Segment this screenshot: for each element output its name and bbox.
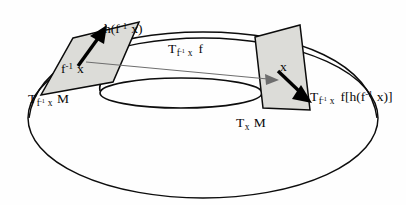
label-M-target: M <box>254 115 266 130</box>
torus-tangent-bundle-figure: Tf-1xM f-1x h(f-1x) Tf-1xf x TxM Tf-1xf[… <box>0 0 406 205</box>
label-tangent-space-target: TxM <box>236 116 266 132</box>
label-f-differential: f <box>199 41 204 56</box>
torus-inner-hole <box>100 78 262 108</box>
label-sub-finv-pushforward: f-1x <box>318 96 335 106</box>
label-base-point-target: x <box>280 60 287 74</box>
label-body-close-pushforward: x)] <box>377 89 393 104</box>
label-base-point-source: f-1x <box>61 62 84 76</box>
label-T-target: T <box>236 115 244 130</box>
label-sub-finv-differential: f-1x <box>176 48 193 58</box>
label-tangent-vector-source: h(f-1x) <box>104 22 142 36</box>
label-sub-x-target: x <box>244 122 249 132</box>
label-x-target: x <box>280 59 287 74</box>
label-sup-inv-vector: -1 <box>120 21 127 31</box>
label-tangent-space-source: Tf-1xM <box>28 92 69 108</box>
label-sub-finv-source: f-1x <box>36 98 53 108</box>
label-body-open-pushforward: f[h(f <box>341 89 366 104</box>
label-sup-inv2-pushforward: -1 <box>365 89 372 99</box>
label-x-close-vector: x) <box>131 21 142 36</box>
label-sup-inv-differential: -1 <box>180 47 185 54</box>
label-sub-x-source: x <box>48 98 53 108</box>
label-sup-inv-pushforward: -1 <box>322 95 327 102</box>
label-T-pushforward: T <box>310 89 318 104</box>
label-sub-x-pushforward: x <box>330 96 335 106</box>
label-x-basepoint: x <box>77 61 84 76</box>
label-pushforward-vector: Tf-1xf[h(f-1x)] <box>310 90 393 106</box>
label-h-open: h(f <box>104 21 120 36</box>
label-T-source: T <box>28 91 36 106</box>
label-sub-x-differential: x <box>188 48 193 58</box>
label-T-differential: T <box>168 41 176 56</box>
label-differential-map: Tf-1xf <box>168 42 203 58</box>
label-sup-inv-source: -1 <box>40 97 45 104</box>
label-M-source: M <box>57 91 69 106</box>
label-sup-inv-basepoint: -1 <box>66 61 73 71</box>
